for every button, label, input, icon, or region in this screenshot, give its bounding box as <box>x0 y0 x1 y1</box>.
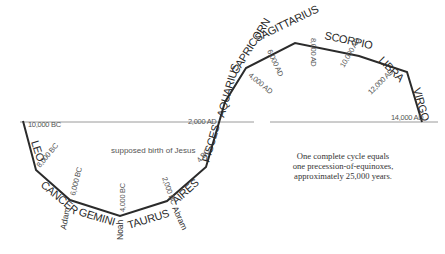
sign-taurus: TAURUS <box>126 207 170 231</box>
date-8-000-ad: 8,000 AD <box>309 38 318 67</box>
date-10-000-bc: 10,000 BC <box>28 120 62 129</box>
date-14-000-ad: 14,000 AD <box>391 113 424 122</box>
cycle-caption: One complete cycle equals one precession… <box>268 151 418 181</box>
sign-capricorn: CAPRICORN <box>229 16 273 76</box>
date-6-000-bc: 6,000 BC <box>68 165 84 196</box>
birth-of-jesus-note: supposed birth of Jesus <box>111 146 196 155</box>
date-12-000-ad: 12,000 AD <box>366 67 396 97</box>
date-4-000-ad: 4,000 AD <box>247 71 275 97</box>
date-labels: 10,000 BC8,000 BC6,000 BC4,000 BC2,000 B… <box>28 36 424 212</box>
date-2-000-ad: 2,000 AD <box>188 117 217 126</box>
precession-diagram: LEOCANCERGEMINITAURUSAIRESPISCESAQUARIUS… <box>0 0 445 254</box>
caption-line: one precession-of-equinoxes, <box>268 161 418 171</box>
figure-abram: Abram <box>170 205 190 232</box>
date-6-000-ad: 6,000 AD <box>265 48 286 78</box>
caption-line: approximately 25,000 years. <box>268 171 418 181</box>
figure-noah: Noah <box>115 219 125 240</box>
zodiac-path <box>23 43 422 216</box>
figure-adam: Adam <box>58 207 72 231</box>
date-4-000-bc: 4,000 BC <box>118 182 127 212</box>
zodiac-sign-labels: LEOCANCERGEMINITAURUSAIRESPISCESAQUARIUS… <box>29 3 432 231</box>
caption-line: One complete cycle equals <box>268 151 418 161</box>
